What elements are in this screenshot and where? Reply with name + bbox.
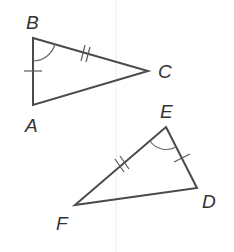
triangle-abc [24,38,148,105]
side-ef-tick-2 [120,156,129,169]
label-e: E [160,101,173,122]
triangle-edf-outline [75,127,197,205]
geometry-diagram: B C A E D F [0,0,234,252]
label-d: D [202,191,216,212]
triangle-abc-outline [33,38,148,105]
label-f: F [56,213,69,234]
angle-b-arc [33,44,55,61]
label-c: C [158,61,172,82]
triangle-edf [75,127,197,205]
side-ed-tick [174,154,190,162]
angle-e-arc [150,141,176,149]
label-b: B [26,12,39,33]
label-a: A [24,115,38,136]
